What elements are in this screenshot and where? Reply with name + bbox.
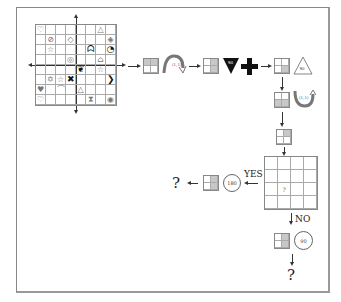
axis-right-arrowhead bbox=[122, 63, 126, 67]
decision-cell bbox=[265, 157, 278, 170]
grid-cell bbox=[96, 75, 106, 85]
grid-cell bbox=[56, 45, 66, 55]
grid-cell bbox=[86, 75, 96, 85]
quadrant-grid bbox=[276, 129, 292, 145]
main-symbol-grid: ♡△⊘◇◈☆ᗣ◔◎⌂❦☆✡☆✖❯♥⌒△♡⧗◉ bbox=[35, 24, 117, 106]
grid-cell: ☆ bbox=[56, 75, 66, 85]
axis-down-arrowhead bbox=[74, 110, 78, 114]
grid-cell bbox=[36, 65, 46, 75]
quadrant-grid bbox=[203, 58, 219, 74]
grid-cell: ❯ bbox=[106, 75, 116, 85]
decision-cell bbox=[265, 196, 278, 209]
grid-cell: ✖ bbox=[66, 75, 76, 85]
grid-cell bbox=[86, 65, 96, 75]
quadrant-grid bbox=[274, 92, 290, 108]
no-label: NO bbox=[295, 214, 310, 224]
grid-cell bbox=[76, 35, 86, 45]
grid-cell bbox=[106, 55, 116, 65]
grid-cell: ☆ bbox=[96, 65, 106, 75]
grid-cell: ♡ bbox=[36, 25, 46, 35]
yes-result: ? bbox=[172, 174, 180, 192]
grid-cell bbox=[46, 55, 56, 65]
quadrant-grid bbox=[203, 175, 219, 191]
grid-cell bbox=[86, 55, 96, 65]
triangle-icon: 90 bbox=[293, 56, 313, 76]
flow-arrow-down bbox=[282, 77, 283, 88]
grid-cell: ◉ bbox=[106, 95, 116, 105]
grid-cell: ◎ bbox=[66, 55, 76, 65]
grid-cell bbox=[36, 35, 46, 45]
decision-cell bbox=[291, 170, 304, 183]
grid-cell bbox=[76, 95, 86, 105]
flow-arrow-down bbox=[292, 254, 293, 263]
flow-arrow-down bbox=[284, 147, 285, 153]
grid-cell: ⊘ bbox=[46, 35, 56, 45]
grid-cell: ᗣ bbox=[86, 45, 96, 55]
flow-arrow-left bbox=[247, 183, 258, 184]
grid-cell: ♡ bbox=[36, 95, 46, 105]
grid-cell bbox=[66, 95, 76, 105]
decision-cell bbox=[304, 157, 317, 170]
grid-cell bbox=[66, 85, 76, 95]
grid-cell bbox=[46, 25, 56, 35]
decision-cell: ? bbox=[278, 183, 291, 196]
grid-cell bbox=[66, 25, 76, 35]
decision-cell bbox=[265, 183, 278, 196]
curved-arrow-down-icon: (1,1) bbox=[292, 88, 316, 110]
flow-arrow bbox=[189, 66, 198, 67]
decision-cell bbox=[278, 157, 291, 170]
grid-cell bbox=[76, 75, 86, 85]
decision-cell bbox=[291, 183, 304, 196]
grid-cell bbox=[76, 45, 86, 55]
decision-cell bbox=[278, 196, 291, 209]
grid-cell bbox=[76, 25, 86, 35]
flow-arrow-left bbox=[190, 183, 198, 184]
yes-label: YES bbox=[244, 169, 263, 179]
grid-cell bbox=[46, 95, 56, 105]
flow-arrow bbox=[128, 66, 138, 67]
grid-cell bbox=[36, 75, 46, 85]
grid-cell bbox=[96, 45, 106, 55]
quadrant-grid bbox=[274, 233, 290, 249]
grid-cell: ♥ bbox=[36, 85, 46, 95]
grid-cell: △ bbox=[76, 85, 86, 95]
rotation-circle: 90 bbox=[294, 231, 313, 250]
grid-cell: ☆ bbox=[46, 45, 56, 55]
rotation-circle: 180 bbox=[223, 174, 241, 192]
svg-text:90: 90 bbox=[228, 60, 234, 65]
decision-cell bbox=[304, 196, 317, 209]
grid-cell bbox=[106, 85, 116, 95]
decision-cell bbox=[304, 183, 317, 196]
grid-cell: ⌒ bbox=[56, 85, 66, 95]
curved-arrow-icon: (1,1) bbox=[161, 53, 187, 75]
decision-cell bbox=[278, 170, 291, 183]
svg-text:(1,1): (1,1) bbox=[299, 95, 309, 100]
grid-cell bbox=[96, 35, 106, 45]
grid-cell: ◔ bbox=[106, 45, 116, 55]
grid-cell bbox=[56, 65, 66, 75]
decision-cell bbox=[291, 196, 304, 209]
grid-cell bbox=[96, 85, 106, 95]
flow-arrow-down bbox=[282, 112, 283, 124]
axis-up-arrowhead bbox=[74, 14, 78, 18]
grid-cell bbox=[86, 85, 96, 95]
inverted-triangle-icon: 90 bbox=[222, 57, 240, 75]
grid-cell: ✡ bbox=[46, 75, 56, 85]
grid-cell bbox=[56, 35, 66, 45]
quadrant-grid bbox=[274, 58, 290, 74]
grid-cell: ❦ bbox=[76, 65, 86, 75]
grid-cell bbox=[56, 25, 66, 35]
flow-arrow-down bbox=[291, 213, 292, 222]
grid-cell bbox=[56, 95, 66, 105]
svg-text:90: 90 bbox=[300, 66, 306, 71]
decision-cell bbox=[304, 170, 317, 183]
decision-grid: ? bbox=[264, 156, 318, 210]
transform-label: (1,1) bbox=[172, 62, 182, 67]
grid-cell bbox=[36, 55, 46, 65]
grid-cell: ⧗ bbox=[86, 95, 96, 105]
decision-cell bbox=[291, 157, 304, 170]
grid-cell: ◇ bbox=[66, 35, 76, 45]
decision-cell bbox=[265, 170, 278, 183]
flow-arrow bbox=[261, 66, 269, 67]
grid-cell bbox=[46, 65, 56, 75]
